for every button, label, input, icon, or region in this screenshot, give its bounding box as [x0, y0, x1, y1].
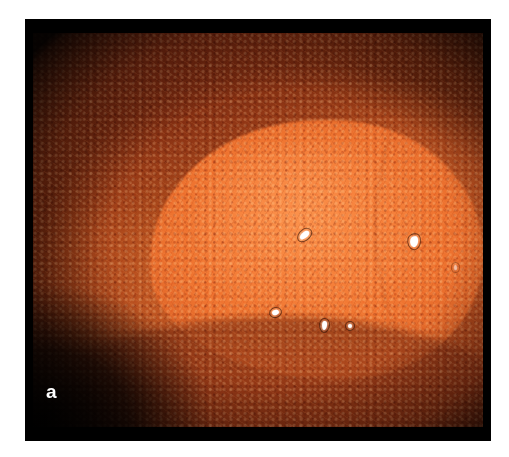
dark-corner-shadow	[33, 33, 483, 427]
specular-highlight	[348, 324, 352, 328]
endoscopic-image	[33, 33, 483, 427]
specular-highlight	[454, 265, 457, 270]
specular-highlight	[409, 235, 419, 248]
specular-highlight	[321, 320, 327, 329]
panel-label: a	[46, 382, 57, 401]
photo-frame	[25, 19, 491, 441]
specular-highlight	[271, 309, 279, 316]
figure-panel: a	[0, 0, 509, 457]
